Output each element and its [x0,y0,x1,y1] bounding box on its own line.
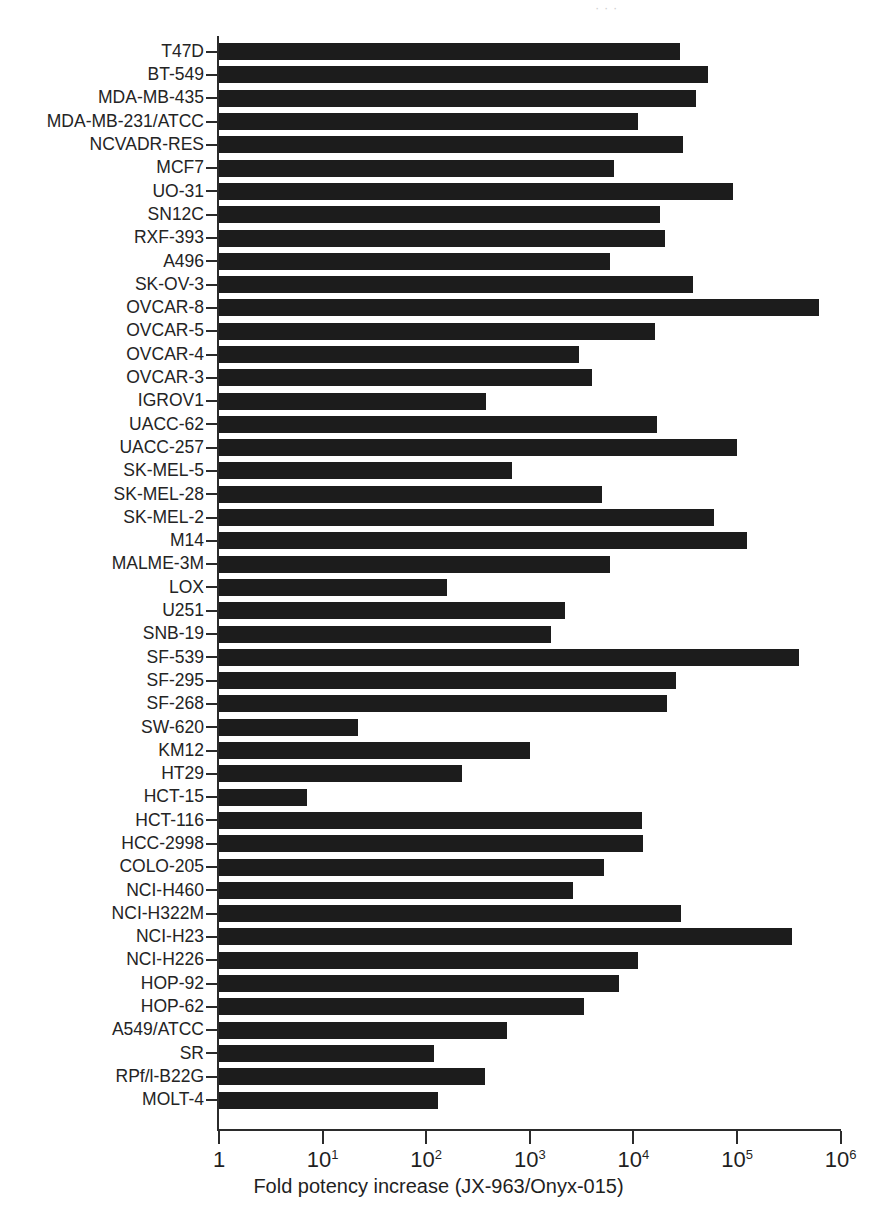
y-axis-tick [206,167,218,169]
bar [219,43,680,60]
bar-row: UO-31 [0,180,877,203]
y-axis-tick [206,610,218,612]
bar-row-label: NCVADR-RES [0,136,218,154]
bar-row: NCI-H226 [0,949,877,972]
bar [219,299,819,316]
bar [219,206,660,223]
bar-row-label: RPf/l-B22G [0,1068,218,1086]
y-axis-tick [206,959,218,961]
y-axis-tick [206,913,218,915]
y-axis-tick [206,447,218,449]
bar [219,626,551,643]
bar-row-label: RXF-393 [0,229,218,247]
bar-row-label: HCT-15 [0,788,218,806]
bar-row: LOX [0,576,877,599]
bar [219,742,530,759]
bar-row: UACC-62 [0,413,877,436]
plot-area: T47DBT-549MDA-MB-435MDA-MB-231/ATCCNCVAD… [0,0,877,1213]
y-axis-tick [206,586,218,588]
bar-row-label: SF-295 [0,672,218,690]
y-axis-tick [206,1006,218,1008]
x-axis-tick-label: 105 [721,1149,753,1171]
bar-row-label: OVCAR-3 [0,369,218,387]
bar-row-label: LOX [0,579,218,597]
bar [219,439,737,456]
bar-row-label: MDA-MB-231/ATCC [0,113,218,131]
bar-row-label: T47D [0,43,218,61]
bar-row: NCI-H460 [0,879,877,902]
bar-row-label: MOLT-4 [0,1091,218,1109]
y-axis-tick [206,423,218,425]
y-axis-tick [206,330,218,332]
bar [219,183,733,200]
bar-row: HCT-15 [0,786,877,809]
y-axis-tick [206,843,218,845]
bar-row: NCI-H23 [0,925,877,948]
bar-row: OVCAR-4 [0,343,877,366]
y-axis-tick [206,983,218,985]
bar-row-label: HCC-2998 [0,835,218,853]
bar-row: KM12 [0,739,877,762]
bar [219,416,657,433]
bar [219,136,683,153]
bar-row: A549/ATCC [0,1018,877,1041]
x-axis-tick-label: 101 [307,1149,339,1171]
y-axis-tick [206,656,218,658]
bar [219,509,714,526]
y-axis-tick [206,889,218,891]
bar-row: OVCAR-5 [0,320,877,343]
bar-row-label: SW-620 [0,719,218,737]
x-axis-tick [218,1131,220,1144]
bar-row: SF-268 [0,692,877,715]
bar [219,695,667,712]
bar-row-label: COLO-205 [0,858,218,876]
bar-row: HOP-92 [0,972,877,995]
bar-row-label: KM12 [0,742,218,760]
bar-row: T47D [0,40,877,63]
bar-row-label: OVCAR-5 [0,322,218,340]
y-axis-tick [206,796,218,798]
y-axis-tick [206,237,218,239]
x-axis-tick-label: 106 [825,1149,857,1171]
bar-row-label: HOP-62 [0,998,218,1016]
bar-row: HOP-62 [0,995,877,1018]
y-axis-tick [206,97,218,99]
x-axis-tick [840,1131,842,1144]
bar-row-label: HCT-116 [0,812,218,830]
bar [219,952,638,969]
y-axis-tick [206,633,218,635]
bar-row: HCT-116 [0,809,877,832]
x-axis-tick [736,1131,738,1144]
y-axis-tick [206,214,218,216]
bar-row: IGROV1 [0,389,877,412]
bar [219,556,610,573]
y-axis-tick [206,144,218,146]
y-axis-tick [206,703,218,705]
bar-row-label: UO-31 [0,183,218,201]
bar [219,835,643,852]
bar-chart: · · · T47DBT-549MDA-MB-435MDA-MB-231/ATC… [0,0,877,1213]
bar-row: SN12C [0,203,877,226]
bar [219,276,693,293]
bar-row-label: HT29 [0,765,218,783]
bar [219,113,638,130]
bar-row: BT-549 [0,63,877,86]
bar-row: MCF7 [0,156,877,179]
bar-row-label: IGROV1 [0,392,218,410]
bar-row: SK-MEL-28 [0,483,877,506]
bar-row: U251 [0,599,877,622]
x-axis-tick-label: 1 [213,1149,225,1171]
bar [219,346,579,363]
bar-row-label: UACC-257 [0,439,218,457]
bar [219,1092,438,1109]
bar [219,928,792,945]
x-axis-tick [529,1131,531,1144]
bar-row-label: M14 [0,532,218,550]
y-axis-tick [206,1052,218,1054]
y-axis-tick [206,819,218,821]
bar-row: SK-MEL-2 [0,506,877,529]
bar-row: SR [0,1042,877,1065]
bar-row-label: SK-MEL-2 [0,509,218,527]
y-axis-tick [206,680,218,682]
bar-row-label: SF-268 [0,695,218,713]
